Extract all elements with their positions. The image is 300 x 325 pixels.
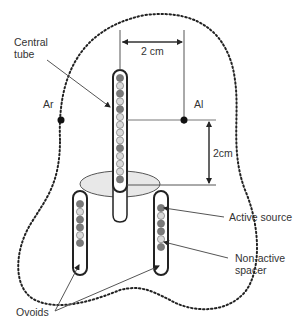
label-ar: Ar bbox=[43, 98, 54, 110]
active-source bbox=[116, 90, 123, 97]
label-al: Al bbox=[194, 98, 203, 110]
label-non-active: Non-active bbox=[235, 252, 285, 264]
label-central: Central bbox=[14, 36, 48, 48]
non-active-spacer bbox=[116, 129, 123, 136]
non-active-spacer bbox=[157, 236, 164, 243]
active-source bbox=[157, 204, 164, 211]
non-active-spacer bbox=[116, 152, 123, 159]
body-contour bbox=[18, 14, 257, 309]
label-ovoids: Ovoids bbox=[16, 306, 49, 318]
label-width-dimension: 2 cm bbox=[141, 45, 164, 57]
active-source bbox=[116, 145, 123, 152]
active-source bbox=[157, 228, 164, 235]
point-al bbox=[181, 117, 188, 124]
non-active-spacer bbox=[76, 232, 83, 239]
active-source bbox=[157, 243, 164, 250]
non-active-spacer bbox=[116, 137, 123, 144]
non-active-spacer bbox=[116, 82, 123, 89]
label-active-source: Active source bbox=[229, 211, 292, 223]
active-source bbox=[76, 224, 83, 231]
non-active-spacer bbox=[116, 168, 123, 175]
label-tube: tube bbox=[14, 48, 48, 60]
non-active-spacer bbox=[116, 160, 123, 167]
non-active-spacer bbox=[76, 208, 83, 215]
label-spacer: spacer bbox=[235, 264, 285, 276]
active-source bbox=[76, 200, 83, 207]
active-source bbox=[116, 74, 123, 81]
active-source bbox=[157, 220, 164, 227]
non-active-spacer bbox=[157, 212, 164, 219]
point-ar bbox=[58, 117, 65, 124]
non-active-spacer bbox=[116, 121, 123, 128]
non-active-spacer bbox=[116, 113, 123, 120]
label-central-tube: Central tube bbox=[14, 36, 48, 60]
active-source bbox=[116, 106, 123, 113]
label-height-dimension: 2cm bbox=[213, 147, 233, 159]
active-source bbox=[76, 239, 83, 246]
non-active-spacer bbox=[116, 98, 123, 105]
active-source bbox=[116, 176, 123, 183]
active-source bbox=[76, 216, 83, 223]
label-non-active-spacer: Non-active spacer bbox=[235, 252, 285, 276]
